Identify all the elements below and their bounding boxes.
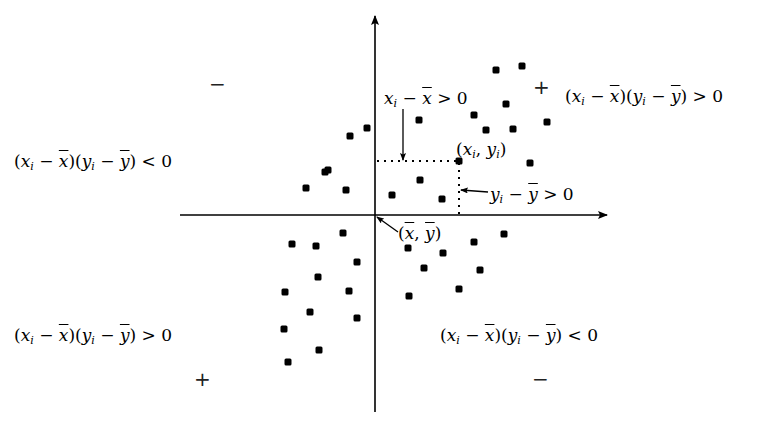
top-right-sign: + xyxy=(533,77,550,97)
data-point xyxy=(471,112,478,119)
highlighted-point-label: (xi, yi) (x_i, y_i) xyxy=(456,141,506,160)
data-point xyxy=(364,125,371,132)
top-left-condition: (xi − x)(yi − y) < 0 (x_i − x̄)(y_i − ȳ)… xyxy=(14,153,172,172)
data-point xyxy=(315,274,322,281)
data-point xyxy=(510,126,517,133)
data-point xyxy=(285,359,292,366)
data-point xyxy=(322,169,329,176)
data-point xyxy=(456,286,463,293)
data-point xyxy=(527,160,534,167)
data-point xyxy=(346,288,353,295)
mean-annotation-arrow xyxy=(377,217,398,232)
data-point xyxy=(354,315,361,322)
data-point xyxy=(347,133,354,140)
dy-annotation-arrow xyxy=(461,190,488,192)
data-point xyxy=(406,293,413,300)
data-point xyxy=(389,192,396,199)
data-point xyxy=(471,239,478,246)
data-point xyxy=(503,101,510,108)
data-point xyxy=(405,245,412,252)
data-point xyxy=(307,309,314,316)
dy-annotation: yi − y > 0 y_i − ȳ > 0 xyxy=(490,186,574,205)
data-point xyxy=(439,196,446,203)
data-point xyxy=(421,265,428,272)
bottom-right-sign: − xyxy=(532,369,549,389)
data-point xyxy=(282,289,289,296)
data-point xyxy=(281,326,288,333)
data-point xyxy=(417,177,424,184)
bottom-right-condition: (xi − x)(yi − y) < 0 (x_i − x̄)(y_i − ȳ)… xyxy=(440,327,598,346)
data-point xyxy=(501,231,508,238)
data-point xyxy=(440,250,447,257)
top-left-sign: − xyxy=(209,74,226,94)
quadrant-diagram xyxy=(0,0,777,429)
bottom-left-condition: (xi − x)(yi − y) > 0 (x_i − x̄)(y_i − ȳ)… xyxy=(14,327,172,346)
data-point xyxy=(289,241,296,248)
data-point xyxy=(313,243,320,250)
data-point xyxy=(340,230,347,237)
data-point xyxy=(343,187,350,194)
data-point xyxy=(493,67,500,74)
bottom-left-sign: + xyxy=(194,369,211,389)
data-point xyxy=(477,267,484,274)
data-point xyxy=(316,347,323,354)
data-point xyxy=(303,185,310,192)
top-right-condition: (xi − x)(yi − y) > 0 (x_i − x̄)(y_i − ȳ)… xyxy=(565,88,723,107)
dx-annotation: xi − x > 0 x_i − x̄ > 0 xyxy=(384,90,468,109)
data-point xyxy=(354,259,361,266)
data-point xyxy=(544,119,551,126)
data-point xyxy=(416,117,423,124)
mean-point-label: (x, y) (x̄, ȳ) xyxy=(398,225,441,242)
data-point xyxy=(519,63,526,70)
data-point xyxy=(483,127,490,134)
